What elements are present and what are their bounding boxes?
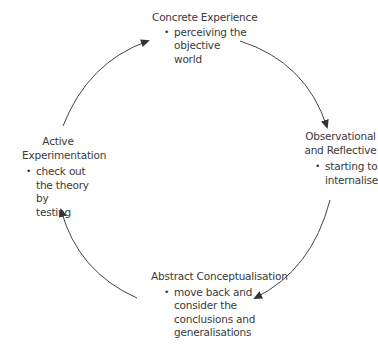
stage-title: Concrete Experience (152, 11, 257, 25)
stage-bullet: move back and consider the conclusions a… (164, 286, 288, 340)
stage-bullet: perceiving the objective world (164, 26, 257, 67)
stage-bullet: starting to internalise (315, 160, 378, 187)
arrow-abstract-to-active (61, 210, 137, 298)
stage-observational-reflective: Observational and Reflective starting to… (303, 130, 378, 187)
stage-active-experimentation: Active Experimentation check out the the… (22, 135, 94, 220)
stage-concrete-experience: Concrete Experience perceiving the objec… (152, 11, 257, 66)
stage-bullet: check out the theory by testing (26, 165, 94, 219)
stage-title: Abstract Conceptualisation (151, 270, 288, 284)
stage-title: Observational (303, 130, 378, 144)
stage-abstract-conceptualisation: Abstract Conceptualisation move back and… (151, 270, 288, 340)
stage-title-line2: and Reflective (303, 144, 378, 158)
arrow-active-to-concrete (63, 41, 148, 126)
stage-title: Active (22, 135, 94, 149)
stage-title-line2: Experimentation (22, 149, 94, 163)
